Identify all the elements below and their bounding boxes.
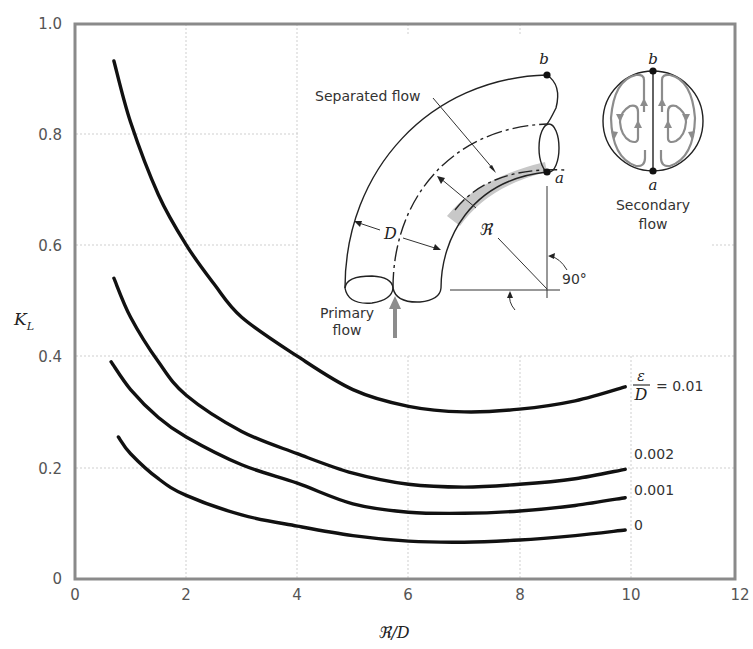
diameter-label: D — [383, 224, 397, 243]
point-b-label: b — [539, 50, 549, 68]
x-tick: 6 — [403, 586, 413, 604]
secondary-point-a: a — [649, 176, 658, 194]
angle-label: 90° — [562, 271, 587, 287]
y-axis-ticks: 0 0.2 0.4 0.6 0.8 1.0 — [38, 15, 62, 588]
epsilon-symbol: ε — [637, 368, 645, 384]
x-axis-ticks: 0 2 4 6 8 10 12 — [70, 586, 749, 604]
radius-label: ℜ — [479, 220, 494, 239]
y-tick: 0.2 — [38, 460, 62, 478]
series-label-0.01: = 0.01 — [656, 378, 703, 394]
series-label-0.001: 0.001 — [634, 482, 674, 498]
secondary-flow-label-1: Secondary — [616, 197, 690, 213]
curve-eps-0 — [118, 437, 625, 542]
inlet-ellipse-right — [393, 288, 441, 302]
x-tick: 2 — [181, 586, 191, 604]
primary-flow-label-1: Primary — [320, 305, 374, 321]
y-tick: 0.6 — [38, 237, 62, 255]
x-axis-label: ℜ/D — [378, 623, 409, 642]
inlet-ellipse — [345, 276, 393, 303]
x-tick: 4 — [292, 586, 302, 604]
point-a-marker — [543, 168, 550, 175]
d-symbol: D — [634, 385, 648, 404]
outlet-ellipse — [539, 124, 559, 172]
series-labels: ε D = 0.01 0.002 0.001 0 — [633, 368, 703, 533]
data-curves — [111, 61, 625, 542]
primary-flow-label-2: flow — [333, 322, 362, 338]
x-tick: 0 — [70, 586, 80, 604]
pipe-bend-diagram: b a Separated flow D ℜ 90° Primary flow — [315, 50, 587, 338]
loss-coefficient-chart: 0 0.2 0.4 0.6 0.8 1.0 0 2 4 6 8 10 12 ℜ/… — [0, 0, 753, 649]
y-tick: 0.8 — [38, 126, 62, 144]
y-tick: 0 — [52, 570, 62, 588]
series-label-0: 0 — [634, 517, 643, 533]
point-a-label: a — [555, 169, 564, 187]
x-tick: 10 — [621, 586, 640, 604]
y-tick: 1.0 — [38, 15, 62, 33]
y-tick: 0.4 — [38, 348, 62, 366]
secondary-flow-label-2: flow — [639, 216, 668, 232]
secondary-point-b: b — [648, 50, 658, 68]
curve-eps-0.001 — [111, 362, 625, 514]
secondary-flow-diagram: b a Secondary flow — [603, 50, 703, 232]
outlet-top — [547, 75, 558, 124]
point-b-marker — [543, 71, 550, 78]
curve-eps-0.01 — [114, 61, 625, 412]
series-label-0.002: 0.002 — [634, 446, 674, 462]
y-axis-label: KL — [13, 309, 34, 333]
inner-wall — [441, 172, 547, 288]
x-tick: 12 — [730, 586, 749, 604]
x-tick: 8 — [515, 586, 525, 604]
separated-flow-label: Separated flow — [315, 88, 421, 104]
